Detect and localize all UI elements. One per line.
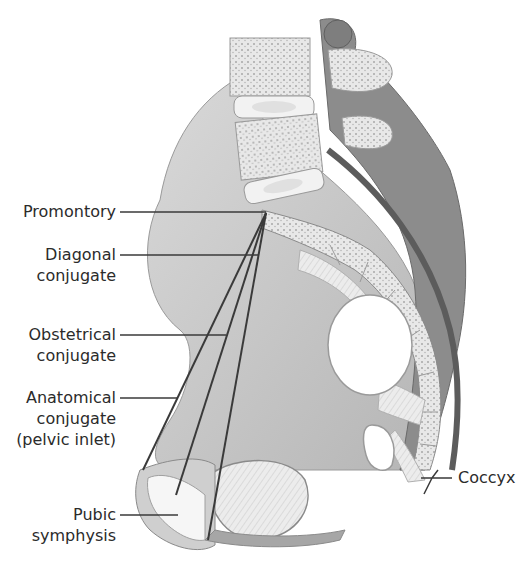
- coccyx-leader: [421, 470, 452, 494]
- label-obstetrical-conjugate: Obstetrical conjugate: [28, 324, 116, 366]
- label-anatomical-conjugate: Anatomical conjugate (pelvic inlet): [16, 387, 116, 450]
- label-diagonal-conjugate: Diagonal conjugate: [37, 244, 116, 286]
- label-coccyx: Coccyx: [458, 467, 516, 488]
- label-pubic-symphysis: Pubic symphysis: [32, 504, 116, 546]
- label-promontory: Promontory: [23, 201, 116, 222]
- greater-sciatic-foramen: [328, 295, 412, 395]
- obturator-membrane: [209, 461, 308, 540]
